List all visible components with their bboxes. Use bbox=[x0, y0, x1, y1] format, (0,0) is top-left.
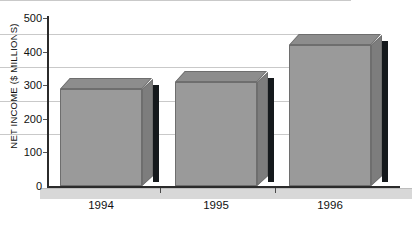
x-tick-label-1995: 1995 bbox=[171, 199, 261, 211]
bar-1995-shadow bbox=[268, 78, 274, 182]
bar-1994-top bbox=[60, 78, 152, 89]
x-tick-2 bbox=[275, 188, 276, 193]
y-tick-label-0: 0 bbox=[8, 181, 42, 192]
y-tick-label-100: 100 bbox=[8, 147, 42, 158]
bar-1996 bbox=[289, 45, 371, 186]
bar-1994-front bbox=[60, 89, 142, 186]
bar-1996-top bbox=[289, 34, 381, 45]
bar-chart: NET INCOME ($ MILLIONS) 500 400 300 200 … bbox=[0, 0, 414, 231]
y-axis-line bbox=[47, 16, 49, 188]
x-axis-line bbox=[49, 186, 400, 188]
bar-1996-front bbox=[289, 45, 371, 186]
y-tick-label-500: 500 bbox=[8, 13, 42, 24]
bar-1995 bbox=[175, 82, 257, 186]
bar-1994-side bbox=[142, 79, 153, 186]
y-tick-label-400: 400 bbox=[8, 47, 42, 58]
bar-1996-side bbox=[371, 35, 382, 186]
chart-floor bbox=[40, 188, 412, 199]
bar-1996-shadow bbox=[382, 41, 388, 182]
bar-1995-front bbox=[175, 82, 257, 186]
y-tick-label-200: 200 bbox=[8, 114, 42, 125]
bar-1995-top bbox=[175, 71, 267, 82]
gridline-500 bbox=[0, 0, 351, 1]
x-tick-label-1996: 1996 bbox=[285, 199, 375, 211]
bar-1994 bbox=[60, 89, 142, 186]
chart-floor-edge bbox=[40, 188, 412, 189]
y-tick-label-300: 300 bbox=[8, 80, 42, 91]
bar-1995-side bbox=[257, 72, 268, 186]
x-tick-1 bbox=[160, 188, 161, 193]
bar-1994-shadow bbox=[153, 85, 159, 182]
x-tick-label-1994: 1994 bbox=[56, 199, 146, 211]
